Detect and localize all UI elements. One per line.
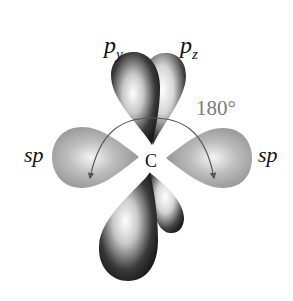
sp-label-left: sp — [24, 144, 44, 166]
py-label: py — [104, 33, 123, 62]
py-lobe-bottom — [99, 172, 158, 281]
sp-label-right: sp — [258, 144, 278, 166]
py-lobe-top — [111, 52, 160, 145]
sp-orbital-diagram: py pz 180° sp sp C — [0, 0, 293, 301]
pz-label: pz — [180, 33, 198, 62]
carbon-atom-label: C — [145, 152, 157, 170]
angle-label: 180° — [196, 98, 236, 119]
